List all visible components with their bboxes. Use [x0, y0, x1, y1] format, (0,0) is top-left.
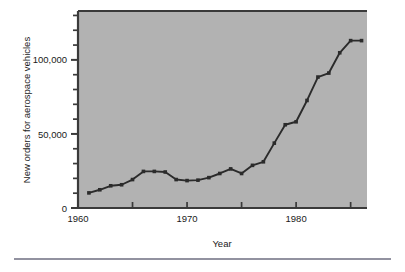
data-point-marker	[142, 170, 146, 174]
x-tick-label: 1980	[286, 213, 307, 224]
data-point-marker	[360, 39, 364, 43]
data-point-marker	[109, 184, 113, 188]
data-point-marker	[87, 191, 91, 195]
aerospace-orders-line-chart: 050,000100,000 196019701980 New orders f…	[0, 0, 405, 272]
data-point-marker	[273, 141, 277, 145]
data-point-marker	[185, 179, 189, 183]
data-point-marker	[349, 39, 353, 43]
data-point-marker	[98, 188, 102, 192]
data-point-marker	[207, 176, 211, 180]
figure-container: 050,000100,000 196019701980 New orders f…	[0, 0, 405, 272]
y-tick-label: 100,000	[33, 54, 67, 65]
y-axis-tick-labels: 050,000100,000	[33, 54, 67, 213]
data-point-marker	[283, 123, 287, 127]
y-tick-label: 50,000	[38, 129, 67, 140]
x-tick-label: 1970	[176, 213, 197, 224]
data-point-marker	[262, 160, 266, 164]
data-point-marker	[196, 178, 200, 182]
data-point-marker	[316, 75, 320, 79]
data-point-marker	[131, 178, 135, 182]
data-point-marker	[174, 178, 178, 182]
plot-area-background	[78, 11, 367, 208]
data-point-marker	[327, 71, 331, 75]
data-point-marker	[240, 172, 244, 176]
y-tick-label: 0	[62, 203, 67, 214]
x-tick-label: 1960	[67, 213, 88, 224]
data-point-marker	[229, 167, 233, 171]
data-point-marker	[218, 172, 222, 176]
data-point-marker	[338, 51, 342, 55]
data-point-marker	[120, 183, 124, 187]
data-point-marker	[251, 164, 255, 168]
x-axis-title: Year	[212, 238, 231, 249]
data-point-marker	[294, 120, 298, 124]
data-point-marker	[163, 170, 167, 174]
data-point-marker	[153, 170, 157, 174]
data-point-marker	[305, 99, 309, 103]
y-axis-title: New orders for aerospace vehicles	[21, 37, 32, 184]
x-axis-tick-labels: 196019701980	[67, 213, 306, 224]
